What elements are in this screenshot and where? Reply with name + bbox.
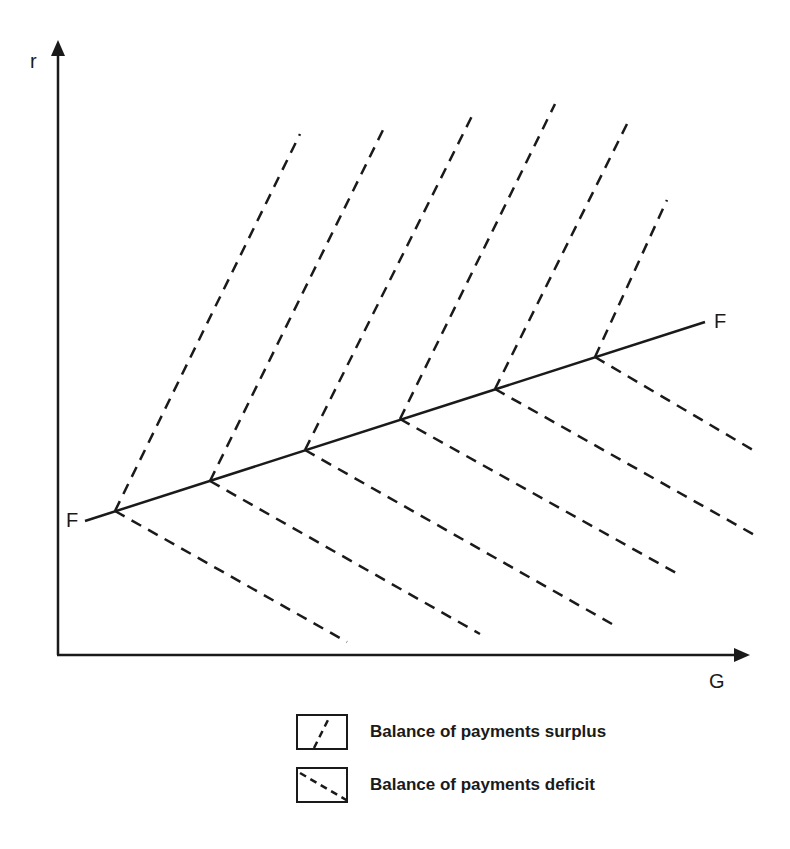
surplus-dashed-line	[115, 134, 300, 511]
x-axis-arrow-icon	[734, 648, 750, 662]
legend-label-deficit: Balance of payments deficit	[370, 775, 595, 795]
deficit-dashed-line	[115, 511, 347, 642]
surplus-dashed-line	[595, 200, 667, 357]
surplus-swatch-icon	[296, 714, 348, 750]
legend-label-surplus: Balance of payments surplus	[370, 722, 606, 742]
surplus-lines	[115, 104, 667, 511]
deficit-lines	[115, 357, 758, 642]
deficit-swatch-icon	[296, 767, 348, 803]
y-axis-arrow-icon	[51, 40, 65, 56]
y-axis-label: r	[30, 50, 37, 73]
deficit-dashed-line	[595, 357, 758, 453]
deficit-dashed-line	[210, 481, 480, 634]
ff-label-right: F	[714, 310, 726, 333]
surplus-dashed-line	[495, 122, 628, 389]
legend-item-surplus: Balance of payments surplus	[296, 714, 606, 750]
deficit-dashed-line	[400, 419, 678, 574]
deficit-dashed-line	[305, 450, 612, 624]
deficit-dashed-line	[495, 389, 758, 537]
surplus-dashed-line	[400, 104, 555, 419]
surplus-dashed-line	[210, 126, 385, 481]
ff-label-left: F	[66, 509, 78, 532]
surplus-dashed-line	[305, 114, 473, 450]
ff-curve	[85, 322, 705, 521]
x-axis-label: G	[709, 670, 725, 693]
legend-item-deficit: Balance of payments deficit	[296, 767, 595, 803]
